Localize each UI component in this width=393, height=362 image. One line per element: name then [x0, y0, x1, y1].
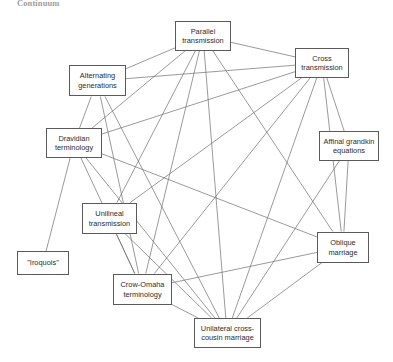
node-label-alternating: Alternatinggenerations	[72, 71, 123, 89]
node-dravidian[interactable]: Dravidianterminology	[46, 128, 102, 158]
node-label-crowomaha: Crow-Omahaterminology	[116, 280, 169, 298]
node-unilineal[interactable]: Unilinealtransmission	[82, 203, 137, 234]
node-layer: ParalleltransmissionCrosstransmissionAlt…	[0, 0, 393, 362]
node-alternating[interactable]: Alternatinggenerations	[69, 65, 126, 96]
node-cross[interactable]: Crosstransmission	[295, 48, 349, 78]
node-iroquois[interactable]: "Iroquois"	[17, 251, 69, 275]
node-label-parallel: Paralleltransmission	[178, 27, 228, 45]
node-unilateral[interactable]: Unilateral cross-cousin marriage	[194, 318, 261, 348]
node-label-affinal: Affinal grandkinequations	[322, 137, 376, 155]
node-label-oblique: Obliquemarriage	[320, 238, 366, 256]
node-label-unilineal: Unilinealtransmission	[85, 209, 134, 227]
node-parallel[interactable]: Paralleltransmission	[175, 21, 231, 51]
node-affinal[interactable]: Affinal grandkinequations	[319, 131, 379, 161]
diagram-canvas: Continuum ParalleltransmissionCrosstrans…	[0, 0, 393, 362]
node-label-unilateral: Unilateral cross-cousin marriage	[197, 324, 258, 342]
node-crowomaha[interactable]: Crow-Omahaterminology	[113, 274, 172, 305]
node-oblique[interactable]: Obliquemarriage	[317, 232, 369, 263]
node-label-iroquois: "Iroquois"	[20, 258, 66, 267]
node-label-dravidian: Dravidianterminology	[49, 134, 99, 152]
node-label-cross: Crosstransmission	[298, 54, 346, 72]
